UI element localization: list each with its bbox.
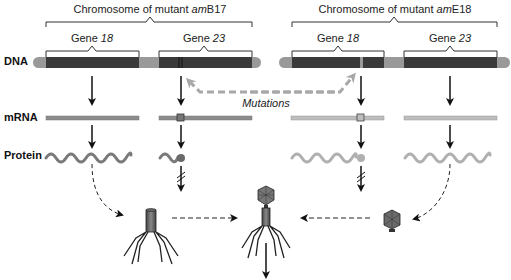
right-gene18-truncated-protein [292, 154, 356, 162]
left-chromosome-title: Chromosome of mutant amB17 [74, 3, 227, 15]
right-blocked-arrow [357, 166, 365, 190]
right-gene23-protein [405, 153, 490, 162]
right-gene23-mrna [404, 116, 497, 120]
left-gene18-label: Gene 18 [71, 32, 114, 44]
left-dna-chromosome [33, 57, 261, 68]
right-gene18-mrna [291, 116, 384, 120]
right-gene23-dna [404, 57, 497, 68]
protein-row-label: Protein [4, 149, 42, 161]
left-stop-codon-marker [177, 114, 184, 121]
phage-tail-icon [124, 209, 178, 265]
left-gene23-bracket: Gene 23 [159, 32, 252, 57]
left-gene18-bracket: Gene 18 [46, 32, 139, 57]
right-chromosome-bracket: Chromosome of mutant amE18 [292, 3, 497, 27]
complementation-diagram: Chromosome of mutant amB17 Gene 18 Gene … [0, 0, 511, 280]
right-gene18-bracket: Gene 18 [292, 32, 384, 57]
left-blocked-arrow [177, 166, 185, 190]
phage-head-icon [384, 210, 400, 232]
right-mutation-site [360, 57, 363, 68]
left-gene18-mrna [46, 116, 139, 120]
left-truncated-end [177, 154, 185, 162]
left-gene23-dna [159, 57, 252, 68]
dna-row-label: DNA [4, 55, 28, 67]
right-gene18-label: Gene 18 [317, 32, 360, 44]
right-gene23-bracket: Gene 23 [404, 32, 497, 57]
left-gene23-label: Gene 23 [183, 32, 226, 44]
left-gene18-protein [46, 153, 131, 162]
left-gene23-truncated-protein [160, 154, 178, 162]
right-dna-chromosome [279, 57, 510, 68]
right-chromosome-title: Chromosome of mutant amE18 [319, 3, 472, 15]
arrow-to-head [414, 164, 450, 219]
arrow-to-tail-fibers [92, 164, 122, 215]
left-gene23-mrna [159, 116, 252, 120]
left-chromosome-bracket: Chromosome of mutant amB17 [46, 3, 252, 27]
mutations-indicator: Mutations [188, 75, 354, 109]
left-gene18-dna [46, 57, 139, 68]
mutations-label: Mutations [242, 97, 290, 109]
right-gene23-label: Gene 23 [429, 32, 472, 44]
right-gene18-dna [292, 57, 384, 68]
right-truncated-end [357, 154, 365, 162]
right-stop-codon-marker [357, 114, 364, 121]
mrna-row-label: mRNA [4, 111, 38, 123]
